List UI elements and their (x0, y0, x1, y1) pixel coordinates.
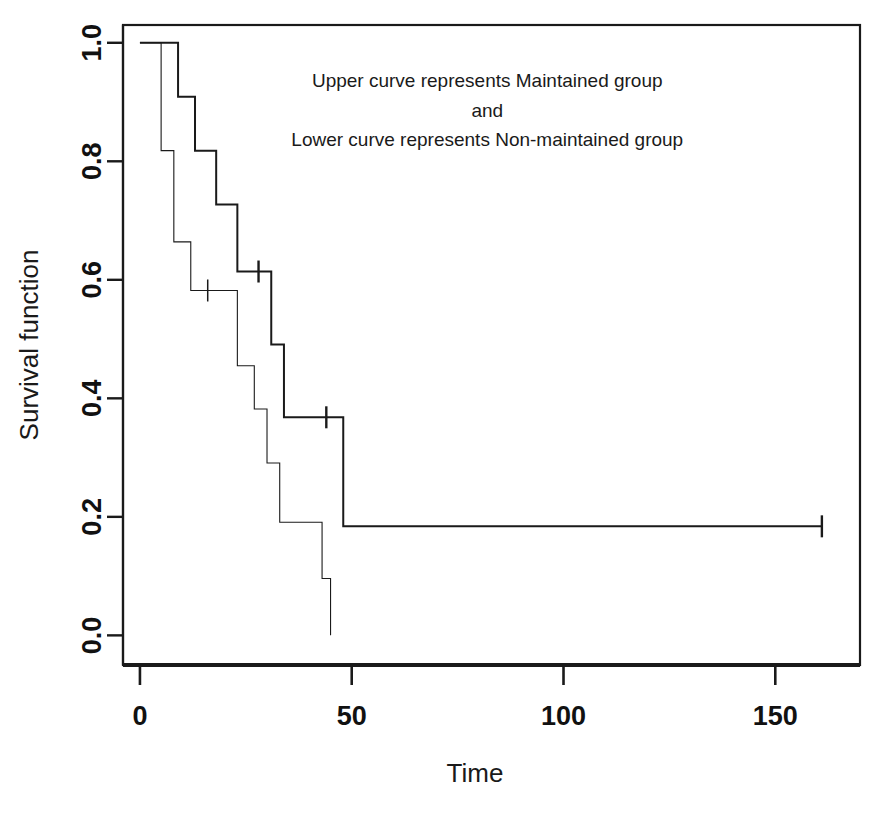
survival-plot: 0.00.20.40.60.81.0 050100150 Upper curve… (0, 0, 883, 823)
chart-annotation-line-2: and (471, 100, 503, 121)
x-tick-label: 50 (337, 701, 367, 731)
x-axis-title: Time (447, 758, 504, 788)
x-tick-label: 100 (541, 701, 586, 731)
y-tick-label: 1.0 (77, 24, 107, 62)
x-tick-label: 0 (132, 701, 147, 731)
y-tick-label: 0.2 (77, 498, 107, 536)
plot-background (0, 0, 883, 823)
y-tick-label: 0.6 (77, 261, 107, 299)
y-tick-label: 0.8 (77, 143, 107, 181)
x-tick-label: 150 (753, 701, 798, 731)
y-tick-label: 0.0 (77, 617, 107, 655)
y-axis-title: Survival function (14, 250, 44, 441)
chart-annotation-line-3: Lower curve represents Non-maintained gr… (291, 129, 683, 150)
chart-annotation-line-1: Upper curve represents Maintained group (312, 70, 663, 91)
chart-page: 0.00.20.40.60.81.0 050100150 Upper curve… (0, 0, 883, 823)
y-tick-label: 0.4 (77, 380, 107, 418)
